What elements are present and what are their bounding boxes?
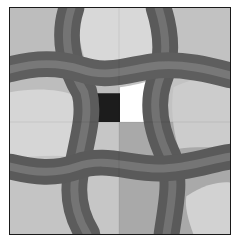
puzzle-board <box>9 7 231 235</box>
light-region-left <box>10 89 76 158</box>
light-region-right <box>172 77 230 149</box>
pattern-canvas <box>10 8 230 234</box>
